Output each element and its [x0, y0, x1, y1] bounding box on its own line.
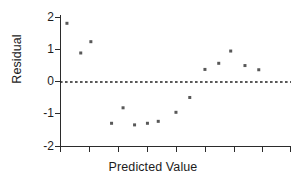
- data-point: [229, 50, 232, 53]
- data-point: [89, 40, 92, 43]
- data-point: [146, 122, 149, 125]
- data-point: [257, 68, 260, 71]
- x-axis-ticks: [61, 147, 291, 153]
- data-point: [217, 62, 220, 65]
- data-point: [188, 96, 191, 99]
- data-point: [79, 51, 82, 54]
- data-point: [110, 122, 113, 125]
- data-point: [243, 64, 246, 67]
- data-point: [203, 68, 206, 71]
- data-point: [122, 106, 125, 109]
- residual-plot-figure: Residual Predicted Value 2 1 0 -1 -2: [0, 0, 306, 181]
- plot-canvas: [0, 0, 306, 181]
- data-point: [157, 120, 160, 123]
- data-point: [174, 111, 177, 114]
- data-point: [133, 123, 136, 126]
- y-axis-ticks: [55, 18, 61, 147]
- scatter-points-layer: [65, 22, 260, 127]
- data-point: [65, 22, 68, 25]
